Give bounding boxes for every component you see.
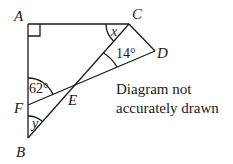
point-label-f: F <box>13 100 24 116</box>
point-label-d: D <box>156 45 168 61</box>
right-angle-marker <box>28 24 40 36</box>
point-label-e: E <box>67 92 77 108</box>
point-label-a: A <box>13 8 24 24</box>
angle-label-14: 14° <box>116 46 136 61</box>
note-line-2: accurately drawn <box>116 100 219 116</box>
angle-label-y: y <box>30 116 39 131</box>
note-line-1: Diagram not <box>116 81 192 97</box>
angle-arc-14 <box>104 53 118 67</box>
angle-label-x: x <box>110 24 118 39</box>
point-label-c: C <box>132 6 143 22</box>
point-label-b: B <box>16 144 25 160</box>
angle-label-62: 62° <box>29 81 49 96</box>
geometry-diagram: A C D E F B x 14° 62° y Diagram not accu… <box>0 0 233 164</box>
